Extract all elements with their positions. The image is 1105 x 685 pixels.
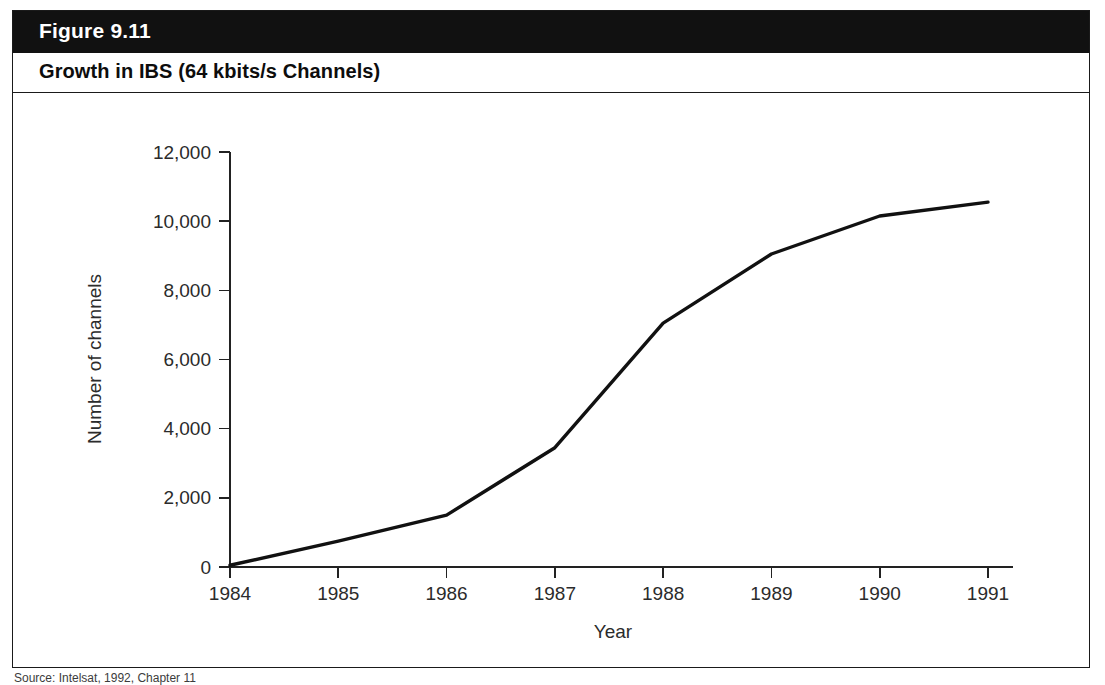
- figure-title-row: Growth in IBS (64 kbits/s Channels): [13, 53, 1089, 93]
- y-tick-label: 4,000: [163, 418, 211, 439]
- data-series-line: [230, 202, 988, 565]
- x-axis-title: Year: [594, 621, 633, 642]
- x-tick-label: 1986: [425, 583, 467, 604]
- y-tick-label: 12,000: [153, 142, 211, 163]
- figure-title: Growth in IBS (64 kbits/s Channels): [39, 60, 380, 83]
- figure-label: Figure 9.11: [39, 19, 151, 43]
- chart-plot-area: 02,0004,0006,0008,00010,00012,000 198419…: [13, 93, 1089, 667]
- y-tick-label: 6,000: [163, 349, 211, 370]
- y-tick-label: 2,000: [163, 487, 211, 508]
- x-tick-label: 1989: [750, 583, 792, 604]
- y-tick-label: 10,000: [153, 211, 211, 232]
- x-tick-label: 1985: [317, 583, 359, 604]
- x-tick-label: 1990: [859, 583, 901, 604]
- x-tick-label: 1987: [534, 583, 576, 604]
- x-tick-label: 1984: [209, 583, 252, 604]
- y-tick-label: 8,000: [163, 280, 211, 301]
- y-tick-label: 0: [200, 557, 211, 578]
- x-tick-label: 1991: [967, 583, 1009, 604]
- x-axis-ticks: [230, 567, 988, 578]
- y-axis-title: Number of channels: [84, 274, 105, 444]
- source-note: Source: Intelsat, 1992, Chapter 11: [14, 671, 196, 685]
- x-tick-label: 1988: [642, 583, 684, 604]
- y-axis-tick-labels: 02,0004,0006,0008,00010,00012,000: [153, 142, 211, 578]
- figure-label-bar: Figure 9.11: [13, 11, 1089, 53]
- line-chart: 02,0004,0006,0008,00010,00012,000 198419…: [13, 93, 1089, 667]
- figure-frame: Figure 9.11 Growth in IBS (64 kbits/s Ch…: [12, 10, 1090, 668]
- x-axis-tick-labels: 19841985198619871988198919901991: [209, 583, 1009, 604]
- y-axis-ticks: [219, 152, 230, 567]
